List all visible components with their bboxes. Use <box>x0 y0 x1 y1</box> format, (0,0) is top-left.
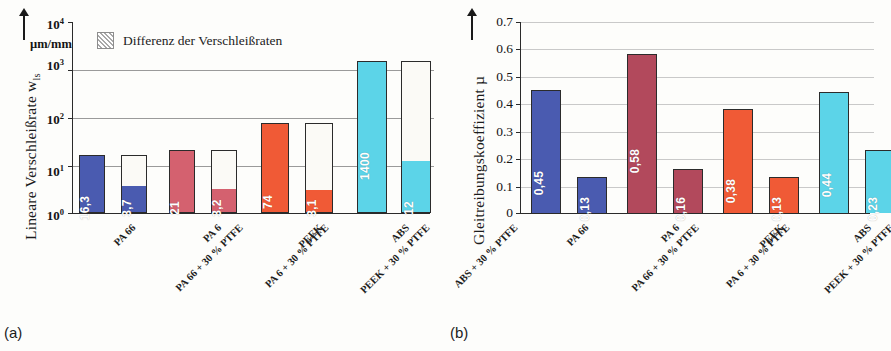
bar-b-pa6[interactable]: 0,58 <box>627 54 657 213</box>
bar-slot-a-8: 12 <box>401 61 431 213</box>
bar-slot-b-4: 0,16 <box>673 169 703 213</box>
figure-root: Lineare Verschleißrate wls 104 µm/mm 103… <box>0 0 891 351</box>
bar-a-pa6-ptfe-difference <box>212 151 236 189</box>
y-tick-b-06: 0.6 <box>483 41 513 57</box>
bar-b-pa6-value: 0,58 <box>628 149 642 174</box>
bar-b-peek[interactable]: 0,38 <box>723 109 753 213</box>
tick-a-10e0 <box>68 213 73 214</box>
bar-a-peek-ptfe-difference <box>306 124 332 190</box>
panel-a-wear-rate-chart: Lineare Verschleißrate wls 104 µm/mm 103… <box>0 0 450 351</box>
caption-a: (a) <box>4 324 22 341</box>
bar-a-pa66[interactable]: 16,3 <box>79 155 105 213</box>
y-unit-label-a: µm/mm <box>30 37 72 52</box>
bar-b-abs-value: 0,44 <box>820 173 834 198</box>
bar-slot-b-8: 0,23 <box>865 150 891 213</box>
y-tick-a-10e4: 104 <box>32 16 64 33</box>
y-tick-a-10e1: 101 <box>32 163 64 180</box>
bar-a-pa66-ptfe-fill: 3,7 <box>122 186 146 212</box>
bar-b-pa66-ptfe[interactable]: 0,13 <box>577 177 607 213</box>
bar-a-pa66-ptfe-value: 3,7 <box>120 199 134 217</box>
y-tick-b-04: 0.4 <box>483 96 513 112</box>
bar-a-abs-ptfe-fill: 12 <box>402 161 430 212</box>
bar-a-pa66-ptfe[interactable]: 3,7 <box>121 155 147 213</box>
bar-b-pa6-ptfe-value: 0,16 <box>674 197 688 222</box>
bar-slot-a-7: 1400 <box>357 61 387 213</box>
bar-b-peek-value: 0,38 <box>724 179 738 204</box>
y-tick-b-01: 0.1 <box>483 179 513 195</box>
bar-group-a: 16,3 3,7 21 <box>73 22 430 213</box>
bar-slot-b-2: 0,13 <box>577 177 607 213</box>
bar-slot-a-6: 3,1 <box>305 123 333 213</box>
bar-a-peek-ptfe[interactable]: 3,1 <box>305 123 333 213</box>
bar-b-peek-ptfe[interactable]: 0,13 <box>769 177 799 213</box>
bar-b-abs-ptfe[interactable]: 0,23 <box>865 150 891 213</box>
y-tick-b-05: 0.5 <box>483 69 513 85</box>
plot-area-b: 0,45 0,13 0,58 0,16 <box>520 22 870 214</box>
bar-a-pa6[interactable]: 21 <box>169 150 195 213</box>
bar-b-pa66-ptfe-value: 0,13 <box>578 197 592 222</box>
bar-a-abs-value: 1400 <box>358 152 372 180</box>
bar-slot-a-4: 3,2 <box>211 150 237 213</box>
bar-a-peek-ptfe-fill: 3,1 <box>306 190 332 212</box>
bar-slot-b-6: 0,13 <box>769 177 799 213</box>
bar-b-abs-ptfe-value: 0,23 <box>866 197 880 222</box>
bar-a-pa66-value: 16,3 <box>78 196 92 221</box>
bar-slot-a-5: 74 <box>261 123 289 213</box>
bar-a-abs-ptfe-value: 12 <box>402 201 416 215</box>
bar-slot-a-1: 16,3 <box>79 155 105 213</box>
bar-a-abs-ptfe[interactable]: 12 <box>401 61 431 213</box>
y-tick-a-10e3: 103 <box>32 57 64 74</box>
caption-b: (b) <box>450 324 468 341</box>
plot-area-a: Differenz der Verschleißraten 16,3 3,7 <box>72 22 430 214</box>
bar-slot-b-7: 0,44 <box>819 92 849 213</box>
bar-slot-a-2: 3,7 <box>121 155 147 213</box>
cat-label-b-1: PA 66 <box>565 222 591 248</box>
y-tick-b-00: 0 <box>483 205 513 221</box>
bar-b-pa6-ptfe[interactable]: 0,16 <box>673 169 703 213</box>
bar-a-pa6-ptfe[interactable]: 3,2 <box>211 150 237 213</box>
bar-b-peek-ptfe-value: 0,13 <box>770 197 784 222</box>
bar-a-abs-ptfe-difference <box>402 62 430 161</box>
y-tick-b-07: 0.7 <box>483 14 513 30</box>
y-tick-b-03: 0.3 <box>483 124 513 140</box>
bar-b-pa66-value: 0,45 <box>532 171 546 196</box>
bar-b-pa66[interactable]: 0,45 <box>531 90 561 213</box>
bar-a-pa6-ptfe-value: 3,2 <box>210 199 224 217</box>
panel-b-friction-chart: Gleitreibungskoeffizient µ 0,45 <box>447 0 891 351</box>
bar-a-pa66-ptfe-difference <box>122 156 146 186</box>
y-tick-a-10e0: 100 <box>32 207 64 224</box>
y-axis-arrow-b <box>471 14 473 40</box>
bar-slot-a-3: 21 <box>169 150 195 213</box>
bar-a-pa6-value: 21 <box>168 201 182 215</box>
y-tick-a-10e2: 102 <box>32 111 64 128</box>
bar-a-pa6-ptfe-fill: 3,2 <box>212 189 236 212</box>
cat-label-a-1: PA 66 <box>112 222 138 248</box>
bar-a-peek-value: 74 <box>261 195 275 209</box>
bar-slot-b-1: 0,45 <box>531 90 561 213</box>
y-tick-b-02: 0.2 <box>483 151 513 167</box>
bar-b-abs[interactable]: 0,44 <box>819 92 849 213</box>
bar-a-abs[interactable]: 1400 <box>357 61 387 213</box>
bar-slot-b-5: 0,38 <box>723 109 753 213</box>
tick-b-00 <box>516 213 521 214</box>
bar-a-peek-ptfe-value: 3,1 <box>305 199 319 217</box>
bar-slot-b-3: 0,58 <box>627 54 657 213</box>
bar-a-peek[interactable]: 74 <box>261 123 289 213</box>
y-axis-arrow-a <box>23 14 25 40</box>
bar-group-b: 0,45 0,13 0,58 0,16 <box>521 22 870 213</box>
